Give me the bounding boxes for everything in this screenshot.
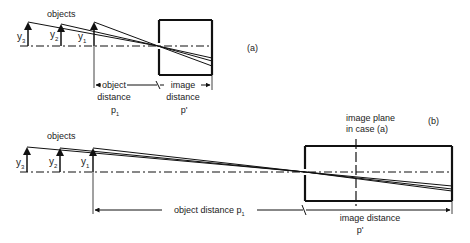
image-plane-label-line2: in case (a)	[346, 124, 388, 134]
rays-a	[28, 22, 212, 66]
image-distance-label-b: image distance	[340, 213, 401, 223]
panel-a: objects y3 y2 y1 object distance p1 imag…	[17, 9, 258, 117]
object-distance-symbol-a: p1	[111, 105, 119, 117]
y2-label-b: y2	[49, 156, 58, 169]
objects-label-a: objects	[47, 9, 76, 19]
objects-label-b: objects	[47, 131, 76, 141]
arrowhead-icon	[23, 147, 31, 155]
camera-box-b	[305, 146, 452, 201]
image-distance-symbol-b: p'	[357, 225, 364, 235]
panel-b: objects y3 y2 y1 image plane in case (a)…	[16, 113, 452, 235]
image-plane-label-line1: image plane	[346, 113, 395, 123]
object-distance-label-a-line2: distance	[97, 92, 131, 102]
arrowhead-icon	[24, 22, 32, 30]
panel-b-label: (b)	[428, 116, 439, 126]
image-distance-label-a-line1: image	[171, 80, 196, 90]
panel-a-label: (a)	[247, 43, 258, 53]
y1-label-b: y1	[81, 156, 90, 169]
object-distance-label-b: object distance p1	[174, 205, 245, 217]
arrowhead-icon	[56, 148, 64, 156]
y3-label-b: y3	[16, 157, 25, 170]
image-distance-label-a-line2: distance	[166, 92, 200, 102]
y3-label-a: y3	[17, 31, 26, 44]
image-distance-symbol-a: p'	[181, 105, 188, 115]
object-distance-label-a-line1: object	[102, 80, 127, 90]
pinhole-diagram: objects y3 y2 y1 object distance p1 imag…	[0, 0, 470, 243]
